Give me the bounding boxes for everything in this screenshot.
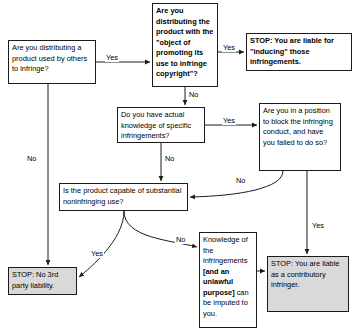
node-stop-no-third-party-liability[interactable]: STOP: No 3rd party liability.	[8, 267, 77, 295]
node-are-you-distributing[interactable]: Are you distributing a product used by o…	[8, 40, 96, 84]
node-knowledge-imputed[interactable]: Knowledge of the infringements [and an u…	[199, 232, 257, 328]
edge-label-substantial-yes: Yes	[90, 250, 104, 258]
edge-label-object-yes: Yes	[222, 44, 236, 52]
edge-label-distributing-no: No	[26, 155, 37, 163]
edge-label-distributing-yes: Yes	[105, 54, 119, 62]
node-object-of-promoting[interactable]: Are you distributing the product with th…	[152, 3, 218, 87]
knowledge-text-part-1: Knowledge of the infringements	[203, 235, 248, 265]
knowledge-text-bold: [and an unlawful purpose]	[203, 267, 235, 297]
node-actual-knowledge[interactable]: Do you have actual knowledge of specific…	[117, 107, 205, 143]
node-position-to-block[interactable]: Are you in a position to block the infri…	[259, 103, 341, 171]
flowchart-canvas: Are you distributing a product used by o…	[0, 0, 357, 335]
node-substantial-noninfringing-use[interactable]: Is the product capable of substantial no…	[59, 183, 188, 211]
edge-label-actual-yes: Yes	[222, 117, 236, 125]
edge-substantial-yes	[79, 211, 124, 277]
node-stop-contributory-infringer[interactable]: STOP: You are liable as a contributory i…	[267, 256, 349, 312]
edge-label-block-no: No	[235, 177, 246, 185]
node-stop-liable-inducing[interactable]: STOP: You are liable for "inducing" thos…	[246, 33, 352, 71]
edge-label-substantial-no: No	[175, 236, 186, 244]
edge-label-block-yes: Yes	[311, 222, 325, 230]
edge-label-actual-no: No	[164, 155, 175, 163]
edge-label-object-no: No	[188, 91, 199, 99]
